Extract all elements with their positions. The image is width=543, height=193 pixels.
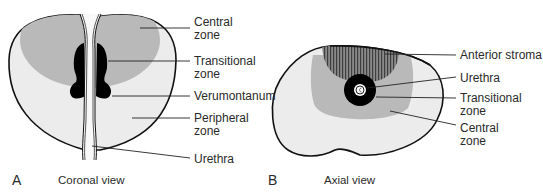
- axial-view: [272, 42, 456, 156]
- label-central-zone-axial: Central zone: [460, 122, 499, 148]
- caption-coronal-view: Coronal view: [58, 174, 124, 186]
- panel-letter-a: A: [12, 172, 21, 188]
- label-central-zone: Central zone: [194, 16, 233, 42]
- label-peripheral-zone: Peripheral zone: [194, 112, 249, 138]
- label-urethra-axial: Urethra: [460, 72, 500, 85]
- coronal-view: [9, 0, 190, 160]
- label-anterior-stroma: Anterior stroma: [460, 49, 542, 62]
- caption-axial-view: Axial view: [324, 174, 375, 186]
- label-urethra: Urethra: [194, 153, 234, 166]
- label-verumontanum: Verumontanum: [194, 90, 275, 103]
- label-transitional-zone-axial: Transitional zone: [460, 92, 522, 118]
- panel-letter-b: B: [268, 172, 277, 188]
- label-transitional-zone: Transitional zone: [194, 55, 256, 81]
